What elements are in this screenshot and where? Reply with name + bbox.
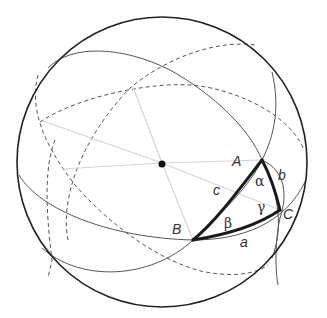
angle-label-beta: β	[224, 215, 232, 231]
radius-upper	[133, 87, 162, 163]
vertex-label-B: B	[172, 221, 181, 237]
vertex-label-A: A	[231, 153, 241, 169]
radius-left-upper	[43, 121, 162, 163]
radius-to-A	[162, 160, 262, 163]
side-label-b: b	[278, 167, 286, 183]
back-arc-1	[40, 85, 304, 150]
side-label-a: a	[240, 234, 248, 250]
angle-label-alpha: α	[255, 173, 265, 189]
back-arc-3	[35, 75, 268, 274]
angle-label-gamma: γ	[257, 199, 265, 215]
back-arc-2	[66, 44, 255, 240]
spherical-triangle	[193, 160, 280, 240]
radius-left	[62, 163, 162, 169]
sphere-center-dot	[159, 161, 166, 168]
side-label-c: c	[213, 182, 220, 198]
sphere-diagram: A B C a b c α β γ	[0, 0, 327, 318]
spherical-triangle-figure: A B C a b c α β γ	[0, 0, 327, 318]
vertex-label-C: C	[283, 206, 294, 222]
